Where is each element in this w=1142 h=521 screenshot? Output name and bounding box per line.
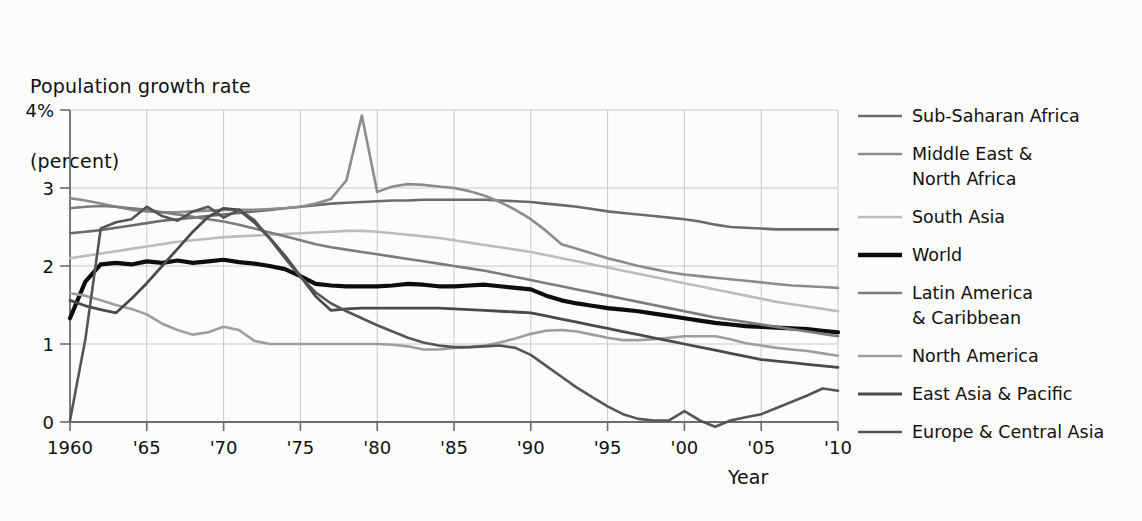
- y-tick-label: 3: [43, 178, 54, 199]
- y-axis-tick-labels: 01234%: [25, 100, 54, 433]
- x-tick-label: 1960: [47, 437, 93, 458]
- legend-label: South Asia: [912, 207, 1005, 227]
- legend-label: Europe & Central Asia: [912, 422, 1104, 442]
- legend-item[interactable]: Latin America& Caribbean: [858, 283, 1033, 328]
- x-tick-label: '80: [363, 437, 391, 458]
- x-tick-label: '85: [440, 437, 468, 458]
- x-tick-label: '70: [210, 437, 238, 458]
- legend-item[interactable]: World: [858, 245, 962, 265]
- y-tick-label: 2: [43, 256, 54, 277]
- legend-item[interactable]: East Asia & Pacific: [858, 384, 1072, 404]
- legend-item[interactable]: Sub-Saharan Africa: [858, 106, 1080, 126]
- legend-label: East Asia & Pacific: [912, 384, 1072, 404]
- legend-label: World: [912, 245, 962, 265]
- legend-label: North America: [912, 346, 1039, 366]
- legend-item[interactable]: South Asia: [858, 207, 1005, 227]
- chart-figure: Population growth rate (percent) Year 01…: [0, 0, 1142, 521]
- legend-item[interactable]: Middle East &North Africa: [858, 144, 1033, 189]
- x-tick-label: '00: [670, 437, 698, 458]
- y-tick-label: 1: [43, 334, 54, 355]
- legend-label: Middle East &: [912, 144, 1033, 164]
- legend-item[interactable]: Europe & Central Asia: [858, 422, 1104, 442]
- y-tick-label: 4%: [25, 100, 54, 121]
- axis-tickmarks: [60, 110, 838, 431]
- y-tick-label: 0: [43, 412, 54, 433]
- legend-label: & Caribbean: [912, 308, 1021, 328]
- x-tick-label: '95: [594, 437, 622, 458]
- legend-label: Latin America: [912, 283, 1033, 303]
- x-tick-label: '75: [286, 437, 314, 458]
- line-chart-plot: 01234% 1960'65'70'75'80'85'90'95'00'05'1…: [0, 0, 1142, 521]
- legend-item[interactable]: North America: [858, 346, 1039, 366]
- chart-legend: Sub-Saharan AfricaMiddle East &North Afr…: [858, 106, 1104, 442]
- x-tick-label: '65: [133, 437, 161, 458]
- x-axis-tick-labels: 1960'65'70'75'80'85'90'95'00'05'10: [47, 437, 852, 458]
- legend-label: North Africa: [912, 169, 1016, 189]
- x-tick-label: '10: [824, 437, 852, 458]
- x-tick-label: '05: [747, 437, 775, 458]
- x-tick-label: '90: [517, 437, 545, 458]
- legend-label: Sub-Saharan Africa: [912, 106, 1080, 126]
